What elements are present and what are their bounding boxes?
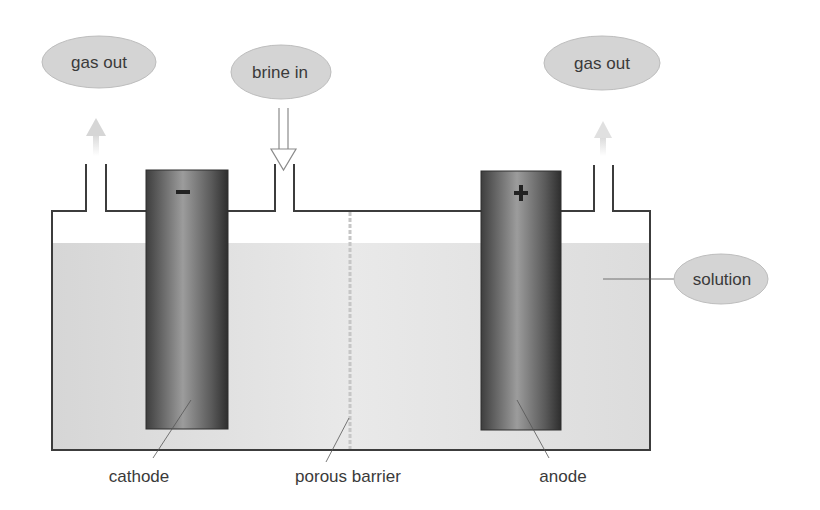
brine-in-arrow — [271, 108, 296, 170]
gas-out-left-bubble: gas out — [42, 36, 156, 88]
brine-in-bubble: brine in — [231, 45, 331, 99]
electrolysis-diagram: gas out brine in gas out solution cathod… — [0, 0, 820, 510]
brine-in-label: brine in — [252, 63, 308, 82]
gas-out-right-label: gas out — [574, 54, 630, 73]
anode-label: anode — [539, 467, 586, 486]
gas-out-arrow-left — [86, 118, 106, 156]
solution-bubble: solution — [674, 254, 768, 304]
porous-barrier-label: porous barrier — [295, 467, 401, 486]
gas-out-left-label: gas out — [71, 53, 127, 72]
solution-label: solution — [693, 270, 752, 289]
cathode-label: cathode — [109, 467, 170, 486]
anode-electrode — [481, 171, 561, 430]
minus-icon — [176, 190, 190, 194]
gas-out-right-bubble: gas out — [544, 36, 660, 90]
gas-out-arrow-right — [594, 121, 612, 156]
cathode-electrode — [146, 170, 228, 429]
